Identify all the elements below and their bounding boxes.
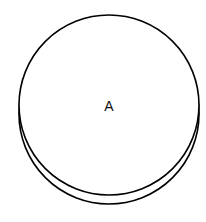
- node-label: A: [104, 98, 114, 114]
- diagram-canvas: A: [0, 0, 206, 222]
- node-a[interactable]: A: [19, 15, 199, 204]
